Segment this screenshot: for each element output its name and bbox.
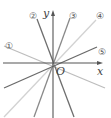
line-label-4: ④ <box>96 11 104 21</box>
line-label-1: ① <box>5 41 13 51</box>
origin-label: O <box>56 65 65 78</box>
x-axis-label: x <box>97 65 104 78</box>
y-axis-label: y <box>42 7 50 20</box>
coordinate-diagram: x y O ①②③④⑤ <box>0 0 111 118</box>
line-label-3: ③ <box>69 11 77 21</box>
line-label-2: ② <box>29 11 37 21</box>
y-axis-arrow-icon <box>51 10 55 16</box>
lines-layer <box>4 18 105 117</box>
line-4 <box>4 20 96 117</box>
line-label-5: ⑤ <box>98 47 106 57</box>
